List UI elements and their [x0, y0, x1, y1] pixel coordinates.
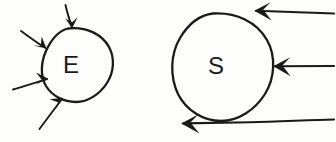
arrow-into-environment-top — [66, 5, 78, 29]
arrowhead-up-right-icon — [50, 98, 63, 110]
node-system: S — [172, 13, 273, 121]
arrow-into-environment-upper-left — [21, 31, 47, 49]
node-environment: E — [42, 28, 113, 102]
arrowhead-down-icon — [66, 17, 78, 28]
diagram-svg: E S — [0, 0, 336, 142]
environment-label: E — [63, 51, 79, 78]
sketch-canvas: E S — [0, 0, 336, 142]
system-label: S — [208, 52, 224, 79]
arrow-into-system-top-right — [254, 2, 334, 20]
arrow-into-environment-bottom-left — [40, 98, 64, 129]
arrow-shaft — [183, 120, 334, 124]
arrowhead-down-right-icon — [33, 36, 47, 48]
arrow-shaft — [256, 11, 334, 14]
arrow-into-system-middle-right — [273, 57, 334, 76]
